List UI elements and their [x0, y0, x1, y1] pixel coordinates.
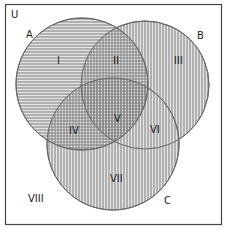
- set-b-label: B: [197, 30, 204, 41]
- set-a-label: A: [26, 29, 33, 40]
- venn-diagram: U A B C I II III IV V VI VII VIII: [0, 0, 227, 230]
- region-v-label: V: [114, 113, 121, 124]
- region-iv-label: IV: [69, 125, 79, 136]
- region-ii-label: II: [113, 55, 119, 66]
- region-vii-label: VII: [110, 173, 123, 184]
- region-iii-label: III: [174, 55, 183, 66]
- region-vi-label: VI: [150, 124, 160, 135]
- universe-label: U: [11, 9, 18, 20]
- region-viii-label: VIII: [28, 193, 44, 204]
- region-i-label: I: [57, 55, 60, 66]
- set-c-label: C: [164, 195, 171, 206]
